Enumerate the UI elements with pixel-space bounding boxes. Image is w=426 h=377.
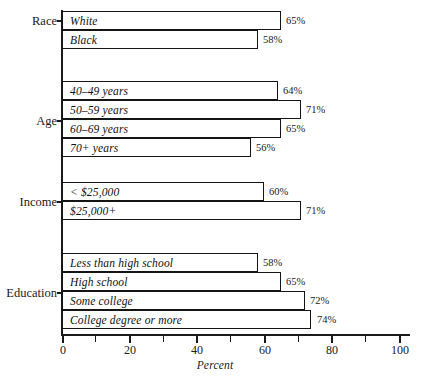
x-tick-100	[399, 336, 401, 343]
bar-value-edu-some-college: 72%	[310, 291, 329, 310]
group-label-education: Education	[6, 286, 57, 300]
x-axis-title-text: Percent	[197, 359, 234, 371]
group-label-age: Age	[36, 114, 57, 128]
x-tick-80	[331, 336, 333, 343]
bar-income-under-25k: < $25,000	[62, 182, 264, 201]
x-tick-label-100: 100	[391, 343, 409, 357]
bar-edu-high-school: High school	[62, 272, 281, 291]
bar-age-60-69: 60–69 years	[62, 119, 281, 138]
x-tick-0	[62, 336, 64, 343]
bar-label-income-under-25k: < $25,000	[70, 186, 119, 198]
group-label-income: Income	[20, 195, 57, 209]
x-tick-50	[230, 336, 231, 342]
percent-axis-line	[61, 334, 410, 336]
bar-value-income-under-25k: 60%	[269, 182, 288, 201]
bar-white: White	[62, 11, 281, 30]
bar-value-age-70-plus: 56%	[256, 138, 275, 157]
x-tick-70	[298, 336, 299, 342]
group-label-race: Race	[32, 14, 57, 28]
bar-value-income-25k-plus: 71%	[306, 201, 325, 220]
x-tick-20	[129, 336, 131, 343]
bar-label-age-50-59: 50–59 years	[70, 104, 128, 116]
bar-value-edu-college-degree-or-more: 74%	[317, 310, 336, 329]
bar-value-edu-high-school: 65%	[286, 272, 305, 291]
x-tick-60	[264, 336, 266, 343]
bar-edu-college-degree-or-more: College degree or more	[62, 310, 311, 329]
bar-edu-less-than-high-school: Less than high school	[62, 253, 258, 272]
bar-age-40-49: 40–49 years	[62, 81, 278, 100]
x-axis-title: Percent	[0, 359, 426, 371]
bar-label-age-60-69: 60–69 years	[70, 123, 128, 135]
bar-label-age-40-49: 40–49 years	[70, 85, 128, 97]
bar-label-age-70-plus: 70+ years	[70, 142, 118, 154]
x-tick-30	[163, 336, 164, 342]
bar-value-white: 65%	[286, 11, 305, 30]
bar-label-edu-less-than-high-school: Less than high school	[70, 257, 173, 269]
bar-label-edu-some-college: Some college	[70, 295, 133, 307]
bar-value-age-50-59: 71%	[306, 100, 325, 119]
bar-label-black: Black	[70, 34, 97, 46]
x-tick-label-20: 20	[124, 343, 136, 357]
bar-label-edu-college-degree-or-more: College degree or more	[70, 314, 182, 326]
x-tick-90	[365, 336, 366, 342]
bar-label-income-25k-plus: $25,000+	[70, 205, 116, 217]
x-tick-label-0: 0	[60, 343, 66, 357]
x-tick-40	[196, 336, 198, 343]
horizontal-bar-chart: Race White 65% Black 58% Age 40–49 years…	[0, 0, 426, 377]
x-tick-label-80: 80	[326, 343, 338, 357]
bar-age-50-59: 50–59 years	[62, 100, 301, 119]
x-tick-10	[95, 336, 96, 342]
bar-value-age-60-69: 65%	[286, 119, 305, 138]
bar-label-white: White	[70, 15, 98, 27]
bar-edu-some-college: Some college	[62, 291, 305, 310]
bar-value-age-40-49: 64%	[283, 81, 302, 100]
bar-value-black: 58%	[263, 30, 282, 49]
x-tick-label-40: 40	[191, 343, 203, 357]
bar-value-edu-less-than-high-school: 58%	[263, 253, 282, 272]
bar-age-70-plus: 70+ years	[62, 138, 251, 157]
plot-area: Race White 65% Black 58% Age 40–49 years…	[0, 0, 426, 377]
bar-income-25k-plus: $25,000+	[62, 201, 301, 220]
x-tick-label-60: 60	[259, 343, 271, 357]
bar-black: Black	[62, 30, 258, 49]
bar-label-edu-high-school: High school	[70, 276, 128, 288]
